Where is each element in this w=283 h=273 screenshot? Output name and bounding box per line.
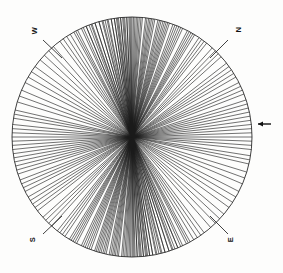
right-edge-tick-icon	[258, 122, 271, 127]
leader-line-west	[43, 40, 62, 58]
rose-diagram-canvas	[0, 0, 283, 273]
compass-label-south: S	[29, 237, 37, 242]
compass-label-north: N	[235, 27, 243, 32]
compass-label-east: E	[227, 237, 235, 242]
leader-line-north	[210, 40, 228, 58]
leader-line-east	[210, 216, 228, 234]
compass-label-west: W	[31, 27, 39, 34]
leader-line-south	[43, 216, 62, 234]
ray-lines-group	[12, 17, 252, 257]
rose-diagram-figure: W N S E	[0, 0, 283, 273]
